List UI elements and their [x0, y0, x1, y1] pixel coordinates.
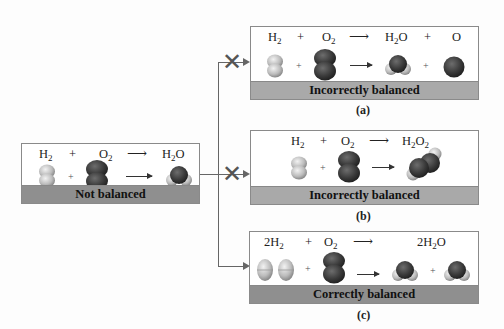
- arrowhead-a: [243, 58, 250, 66]
- oxygen-atom-icon: [443, 56, 465, 78]
- equation-o2: O2: [324, 235, 338, 251]
- reaction-arrow: [126, 176, 152, 177]
- equation-plus: +: [424, 30, 431, 45]
- option-a-panel: H2 + O2 ⟶ H2O + O + + Incorrectly balanc…: [250, 26, 479, 100]
- equation-h2: H2: [39, 147, 53, 163]
- hydrogen-molecule-icon: [266, 54, 284, 78]
- plus-sign: +: [430, 265, 436, 276]
- plus-sign: +: [305, 263, 311, 274]
- cross-mark-icon-a: ✕: [222, 50, 242, 74]
- caption-b: (b): [356, 209, 371, 224]
- equation-o2: O2: [341, 134, 355, 150]
- equation-2h2: 2H2: [264, 235, 284, 251]
- caption-c: (c): [357, 308, 370, 323]
- status-label-correct: Correctly balanced: [250, 285, 478, 303]
- option-b-panel: H2 + O2 ⟶ H2O2 + Incorrectly balanced: [250, 130, 479, 205]
- water-molecule-icon: [443, 260, 471, 282]
- plus-sign: +: [423, 60, 429, 71]
- equation-plus: +: [297, 30, 304, 45]
- equation-arrow: ⟶: [353, 233, 373, 250]
- plus-sign: +: [296, 60, 302, 71]
- equation-arrow: ⟶: [369, 132, 389, 149]
- equation-plus: +: [69, 147, 76, 162]
- connector-branch-c: [218, 266, 246, 267]
- unbalanced-equation-panel: H2 + O2 ⟶ H2O + Not balanced: [21, 143, 200, 204]
- equation-o2: O2: [322, 30, 336, 46]
- equation-h2o: H2O: [162, 147, 185, 163]
- reaction-arrow: [372, 167, 394, 168]
- oxygen-molecule-icon: [322, 252, 346, 284]
- equation-2h2o: 2H2O: [417, 235, 446, 251]
- equation-plus: +: [305, 235, 312, 250]
- hydrogen-peroxide-molecule-icon: [404, 146, 446, 184]
- water-molecule-icon: [384, 54, 412, 76]
- equation-arrow: ⟶: [127, 145, 147, 162]
- plus-sign: +: [68, 171, 74, 182]
- equation-o: O: [452, 30, 461, 45]
- hydrogen-molecule-icon: [290, 156, 308, 180]
- status-label-incorrect: Incorrectly balanced: [251, 186, 478, 204]
- reaction-arrow: [350, 65, 372, 66]
- water-molecule-icon: [391, 260, 419, 282]
- equation-h2: H2: [268, 30, 282, 46]
- connector-trunk: [218, 62, 219, 267]
- oxygen-molecule-icon: [313, 49, 337, 81]
- hydrogen-molecule-icon: [256, 258, 296, 282]
- status-label-incorrect: Incorrectly balanced: [251, 81, 478, 99]
- cross-mark-icon-b: ✕: [222, 162, 242, 186]
- equation-h2: H2: [291, 134, 305, 150]
- equation-h2o: H2O: [385, 30, 408, 46]
- arrowhead-b: [243, 170, 250, 178]
- reaction-arrow: [357, 274, 379, 275]
- oxygen-molecule-icon: [337, 151, 361, 183]
- water-molecule-icon: [165, 165, 193, 187]
- plus-sign: +: [320, 162, 326, 173]
- caption-a: (a): [356, 103, 370, 118]
- option-c-panel: 2H2 + O2 ⟶ 2H2O + + Correctly balanced: [249, 231, 479, 304]
- equation-arrow: ⟶: [349, 28, 369, 45]
- equation-plus: +: [320, 134, 327, 149]
- status-label-not-balanced: Not balanced: [22, 185, 199, 203]
